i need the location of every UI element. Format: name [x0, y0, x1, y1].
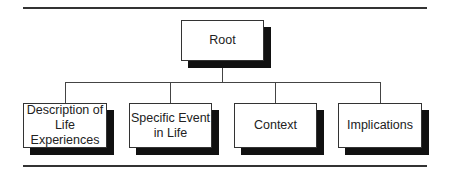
child-node-description-of-life-experiences: Description of Life Experiences	[23, 103, 107, 148]
child-connector-2	[170, 82, 171, 103]
child-node-context: Context	[234, 103, 317, 148]
child-node-label: Implications	[347, 118, 413, 133]
child-connector-4	[380, 82, 381, 103]
child-node-label: Description of Life Experiences	[27, 103, 103, 148]
root-connector	[222, 68, 223, 82]
branch-connector	[65, 82, 381, 83]
child-node-implications: Implications	[338, 103, 422, 148]
bottom-rule	[23, 165, 427, 167]
child-connector-3	[275, 82, 276, 103]
child-node-label: Specific Event in Life	[131, 111, 210, 141]
child-node-specific-event-in-life: Specific Event in Life	[129, 103, 212, 148]
root-node: Root	[181, 20, 264, 61]
child-node-label: Context	[254, 118, 297, 133]
root-node-label: Root	[209, 33, 235, 48]
child-connector-1	[65, 82, 66, 103]
top-rule	[23, 7, 427, 9]
